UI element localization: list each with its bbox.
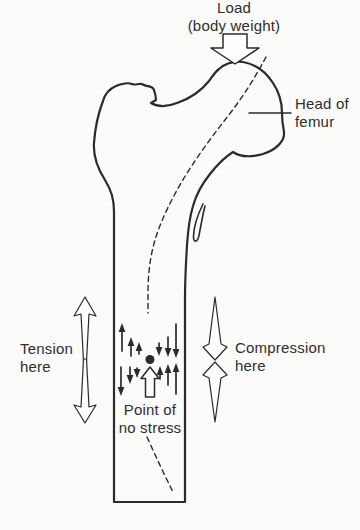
tension-stress-arrows-lower: [118, 367, 141, 396]
femur-diagram-canvas: [0, 0, 360, 530]
compression-stress-arrows-upper: [156, 324, 180, 358]
no-stress-up-arrow-icon: [141, 367, 159, 397]
compression-label-line2: here: [235, 357, 326, 375]
compression-stress-arrows-lower: [157, 363, 180, 394]
point-of-no-stress-label-line1: Point of: [119, 401, 182, 419]
point-of-no-stress-dot: [146, 355, 155, 364]
tension-label-line2: here: [20, 358, 73, 376]
neutral-axis-dashed-line-lower: [147, 437, 173, 492]
lesser-trochanter-line: [193, 204, 205, 241]
load-label-line2: (body weight): [188, 17, 281, 35]
tension-label-line1: Tension: [20, 340, 73, 358]
load-label: Load (body weight): [188, 0, 281, 35]
femur-stress-diagram: Load (body weight) Head of femur Tension…: [0, 0, 360, 530]
point-of-no-stress-label-line2: no stress: [119, 419, 182, 437]
tension-label: Tension here: [20, 340, 73, 376]
compression-double-arrow-icon: [203, 297, 227, 422]
tension-double-arrow-icon: [74, 297, 96, 423]
head-of-femur-label-line2: femur: [295, 113, 349, 131]
tension-stress-arrows-upper: [119, 323, 143, 356]
compression-label-line1: Compression: [235, 339, 326, 357]
point-of-no-stress-label: Point of no stress: [119, 401, 182, 437]
head-of-femur-label: Head of femur: [295, 95, 349, 131]
neutral-axis-dashed-line-upper: [148, 57, 266, 313]
load-label-line1: Load: [188, 0, 281, 17]
compression-label: Compression here: [235, 339, 326, 375]
head-of-femur-label-line1: Head of: [295, 95, 349, 113]
load-arrow-icon: [211, 34, 259, 64]
